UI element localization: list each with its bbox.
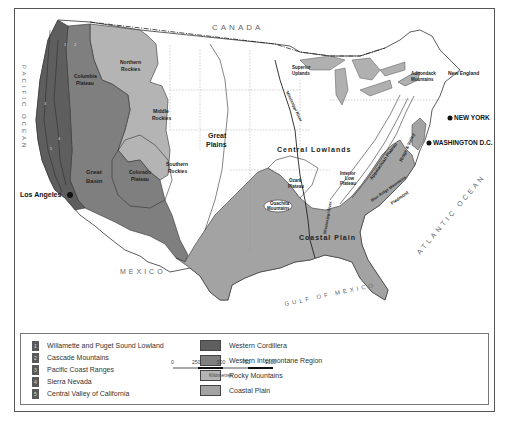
legend-number-2: 2 (32, 353, 39, 363)
scale-tick-1000: 1000 (265, 359, 276, 365)
washington-label: WASHINGTON D.C. (433, 139, 493, 146)
legend-item-3: 3 Pacific Coast Ranges (32, 364, 114, 375)
scale-unit-label: Kilometres (209, 372, 233, 378)
legend-item-4: 4 Sierra Nevada (32, 376, 92, 387)
scale-segment-3 (223, 367, 248, 369)
new-york-label: NEW YORK (454, 114, 490, 121)
scale-tick-750: 750 (242, 359, 251, 365)
legend-label-5: Central Valley of California (47, 390, 129, 397)
legend-label-2: Cascade Mountains (47, 354, 109, 361)
scale-segment-4 (248, 367, 273, 369)
southern-rockies-label: SouthernRockies (166, 161, 188, 174)
new-york-dot (448, 116, 453, 121)
superior-uplands-label: SuperiorUplands (292, 65, 311, 76)
scale-bar: 0 250 500 750 1000 Kilometres (171, 334, 291, 394)
scale-tick-0: 0 (171, 359, 174, 365)
legend-number-5: 5 (32, 389, 39, 399)
mexico-label: MEXICO (120, 268, 166, 275)
legend-number-4: 4 (32, 377, 39, 387)
gulf-label: GULF OF MEXICO (284, 282, 377, 307)
colorado-plateau-label: ColoradoPlateau (129, 169, 151, 182)
adirondack-label: AdirondackMountains (411, 71, 436, 82)
pacific-label: PACIFIC OCEAN (21, 65, 27, 150)
northern-rockies-label: NorthernRockies (120, 59, 141, 72)
central-lowlands-label: Central Lowlands (277, 146, 351, 153)
washington-dot (427, 141, 432, 146)
scale-segment-2 (198, 367, 223, 369)
new-england-label: New England (448, 70, 479, 76)
coastal-plain-label: Coastal Plain (299, 234, 356, 241)
legend-number-3: 3 (32, 365, 39, 375)
los-angeles-label: Los Angeles (20, 191, 61, 199)
columbia-plateau-label: ColumbiaPlateau (74, 73, 97, 86)
middle-rockies-label: MiddleRockies (152, 108, 171, 121)
legend-label-3: Pacific Coast Ranges (47, 366, 114, 373)
legend-label-4: Sierra Nevada (47, 378, 92, 385)
los-angeles-dot (67, 192, 73, 198)
legend-item-1: 1 Willamette and Puget Sound Lowland (32, 340, 164, 351)
legend: 1 Willamette and Puget Sound Lowland 2 C… (20, 333, 489, 405)
scale-segment-1 (173, 367, 198, 369)
scale-tick-250: 250 (192, 359, 201, 365)
svg-text:PACIFIC OCEAN: PACIFIC OCEAN (21, 65, 27, 150)
legend-item-5: 5 Central Valley of California (32, 388, 129, 399)
atlantic-label: ATLANTIC OCEAN (415, 173, 486, 256)
scale-tick-500: 500 (217, 359, 226, 365)
legend-item-2: 2 Cascade Mountains (32, 352, 109, 363)
legend-label-1: Willamette and Puget Sound Lowland (47, 342, 164, 349)
ouachita-label: OuachitaMountains (267, 201, 290, 211)
legend-number-1: 1 (32, 341, 39, 351)
canada-label: CANADA (212, 23, 263, 32)
